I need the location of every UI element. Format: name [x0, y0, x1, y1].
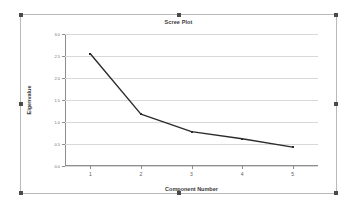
- eigenvalue-line-series: [65, 34, 318, 166]
- y-tick-label: 1.0: [54, 120, 60, 125]
- y-axis-title: Eigenvalue: [26, 85, 32, 114]
- data-point-marker: [292, 146, 294, 148]
- x-tick-label: 5: [291, 171, 294, 177]
- y-tick-label: 2.0: [54, 76, 60, 81]
- x-tick-mark: [192, 166, 193, 169]
- y-tick-label: 1.5: [54, 98, 60, 103]
- y-tick-label: 0.5: [54, 142, 60, 147]
- y-tick-label: 3.0: [54, 32, 60, 37]
- x-tick-mark: [141, 166, 142, 169]
- chart-title: Scree Plot: [20, 19, 337, 25]
- x-tick-mark: [90, 166, 91, 169]
- x-tick-label: 2: [140, 171, 143, 177]
- x-tick-mark: [293, 166, 294, 169]
- x-tick-label: 3: [190, 171, 193, 177]
- data-point-marker: [241, 138, 243, 140]
- x-tick-label: 1: [89, 171, 92, 177]
- data-point-marker: [140, 113, 142, 115]
- y-tick-label: 2.5: [54, 54, 60, 59]
- y-tick-mark: [62, 166, 65, 167]
- data-point-marker: [191, 131, 193, 133]
- data-point-marker: [89, 53, 91, 55]
- scree-plot-chart[interactable]: Scree Plot Eigenvalue 3.02.52.01.51.00.5…: [20, 14, 337, 194]
- y-tick-label: 0.0: [54, 164, 60, 169]
- plot-area: 3.02.52.01.51.00.50.0 12345: [65, 34, 318, 166]
- x-axis-title: Component Number: [65, 186, 318, 192]
- x-tick-label: 4: [241, 171, 244, 177]
- x-tick-mark: [242, 166, 243, 169]
